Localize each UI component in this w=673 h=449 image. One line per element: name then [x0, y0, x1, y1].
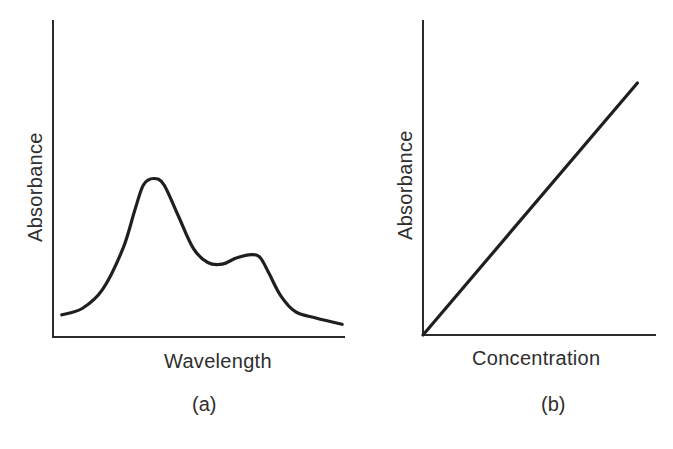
panel-label-b: (b): [541, 393, 565, 416]
x-axis-label-b: Concentration: [472, 347, 600, 370]
chart-a-canvas: [0, 0, 360, 449]
x-axis-label-a: Wavelength: [164, 350, 272, 373]
y-axis-label-b: Absorbance: [394, 130, 417, 240]
chart-panel-a: Absorbance Wavelength (a): [0, 0, 360, 449]
panel-label-a: (a): [192, 393, 216, 416]
chart-panel-b: Absorbance Concentration (b): [360, 0, 673, 449]
absorption-spectrum-curve: [62, 179, 342, 325]
calibration-line: [423, 83, 637, 335]
y-axis-label-a: Absorbance: [24, 132, 47, 242]
